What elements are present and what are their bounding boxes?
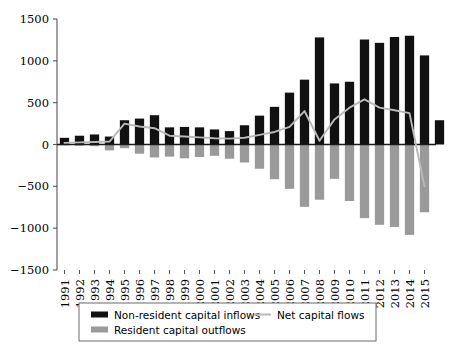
- legend-label: Net capital flows: [277, 309, 364, 321]
- x-tick-label: 2013: [388, 279, 402, 308]
- bar-non-resident-inflow: [210, 129, 219, 144]
- legend-label: Non-resident capital inflows: [114, 309, 260, 321]
- series-resident-capital-outflows: [60, 145, 429, 235]
- y-tick-label: 1500: [20, 12, 49, 26]
- bar-non-resident-inflow: [435, 120, 444, 144]
- bar-resident-outflow: [225, 145, 234, 159]
- bar-non-resident-inflow: [420, 55, 429, 144]
- bar-resident-outflow: [135, 145, 144, 154]
- bar-resident-outflow: [345, 145, 354, 201]
- bar-resident-outflow: [390, 145, 399, 227]
- bar-non-resident-inflow: [285, 93, 294, 145]
- bar-non-resident-inflow: [255, 116, 264, 145]
- legend-item: Non-resident capital inflows: [91, 309, 260, 321]
- bar-non-resident-inflow: [390, 37, 399, 145]
- y-tick-label: −500: [17, 179, 49, 193]
- bar-resident-outflow: [150, 145, 159, 158]
- legend-item: Resident capital outflows: [91, 324, 246, 336]
- x-tick-label: 2015: [418, 279, 432, 308]
- bar-resident-outflow: [195, 145, 204, 158]
- bar-resident-outflow: [405, 145, 414, 235]
- bar-resident-outflow: [285, 145, 294, 189]
- bar-non-resident-inflow: [135, 119, 144, 145]
- legend: Non-resident capital inflowsNet capital …: [79, 303, 376, 341]
- bar-resident-outflow: [375, 145, 384, 225]
- legend-swatch-bar: [91, 327, 108, 333]
- bar-non-resident-inflow: [375, 43, 384, 145]
- x-tick-label: 1991: [58, 279, 72, 308]
- bar-resident-outflow: [300, 145, 309, 207]
- bar-non-resident-inflow: [240, 125, 249, 144]
- bar-resident-outflow: [105, 145, 114, 151]
- capital-flows-chart: 150010005000−500−1000−150019911992199319…: [0, 0, 450, 354]
- x-tick-label: 2014: [403, 279, 417, 308]
- y-tick-label: −1000: [10, 221, 49, 235]
- chart-canvas: 150010005000−500−1000−150019911992199319…: [0, 0, 450, 354]
- bar-resident-outflow: [315, 145, 324, 200]
- y-tick-label: 500: [27, 96, 49, 110]
- bar-resident-outflow: [165, 145, 174, 157]
- bar-resident-outflow: [330, 145, 339, 179]
- y-tick-label: 1000: [20, 54, 49, 68]
- y-axis: 150010005000−500−1000−1500: [10, 12, 57, 277]
- bar-non-resident-inflow: [330, 83, 339, 144]
- bar-resident-outflow: [270, 145, 279, 180]
- legend-label: Resident capital outflows: [114, 324, 246, 336]
- bar-resident-outflow: [255, 145, 264, 169]
- bar-resident-outflow: [420, 145, 429, 213]
- bar-non-resident-inflow: [315, 37, 324, 144]
- bar-resident-outflow: [210, 145, 219, 156]
- bar-non-resident-inflow: [270, 107, 279, 145]
- bar-resident-outflow: [240, 145, 249, 163]
- y-tick-label: 0: [42, 138, 49, 152]
- legend-swatch-bar: [91, 312, 108, 318]
- bar-non-resident-inflow: [360, 39, 369, 144]
- y-tick-label: −1500: [10, 263, 49, 277]
- bar-non-resident-inflow: [195, 127, 204, 144]
- series-non-resident-capital-inflows: [60, 36, 444, 145]
- bar-resident-outflow: [180, 145, 189, 159]
- bar-resident-outflow: [360, 145, 369, 219]
- bar-non-resident-inflow: [345, 82, 354, 145]
